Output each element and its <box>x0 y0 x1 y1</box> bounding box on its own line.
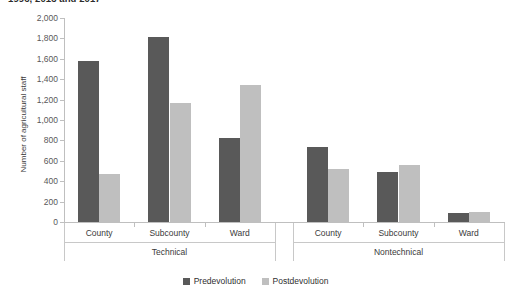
figure-title-clipped: 1996, 2013 and 2017 <box>8 0 101 4</box>
plot-area: 02004006008001,0001,2001,4001,6001,8002,… <box>64 18 504 222</box>
x-axis-tick-mark <box>363 222 364 227</box>
y-axis-tick-mark <box>60 120 64 121</box>
x-axis-category-label: County <box>86 228 113 238</box>
x-axis-group-separator <box>275 223 276 261</box>
x-axis-group-separator <box>293 223 294 261</box>
x-axis-line <box>64 222 505 223</box>
y-axis-tick-mark <box>60 100 64 101</box>
x-axis-category-label: Ward <box>230 228 250 238</box>
y-axis-title: Number of agricultural staff <box>19 40 28 210</box>
x-axis-group-underline <box>64 242 275 243</box>
x-axis-group-label-technical: Technical <box>152 247 187 257</box>
legend-label: Postdevolution <box>273 276 329 286</box>
bar-predevolution-1 <box>148 37 169 222</box>
legend-swatch-icon <box>262 278 269 285</box>
y-axis-tick-mark <box>60 161 64 162</box>
y-axis-tick-mark <box>60 38 64 39</box>
y-axis-tick-mark <box>60 140 64 141</box>
bar-postdevolution-1 <box>170 103 191 222</box>
y-axis-tick-mark <box>60 18 64 19</box>
x-axis-category-label: Subcounty <box>378 228 418 238</box>
x-axis-tick-mark <box>134 222 135 227</box>
legend-item-postdevolution[interactable]: Postdevolution <box>262 276 329 286</box>
x-axis-group-separator <box>504 223 505 261</box>
y-axis-tick-mark <box>60 59 64 60</box>
x-axis-category-label: Ward <box>459 228 479 238</box>
bar-predevolution-4 <box>377 172 398 222</box>
legend-label: Predevolution <box>194 276 246 286</box>
bar-postdevolution-4 <box>399 165 420 222</box>
legend-item-predevolution[interactable]: Predevolution <box>183 276 246 286</box>
chart-figure: 1996, 2013 and 2017 Number of agricultur… <box>0 0 511 298</box>
x-axis-tick-mark <box>205 222 206 227</box>
bar-predevolution-0 <box>78 61 99 222</box>
bar-postdevolution-3 <box>328 169 349 222</box>
y-axis-tick-mark <box>60 202 64 203</box>
x-axis-group-separator <box>64 223 65 261</box>
legend-swatch-icon <box>183 278 190 285</box>
y-axis-tick-mark <box>60 79 64 80</box>
x-axis-group-label-nontechnical: Nontechnical <box>374 247 423 257</box>
bar-postdevolution-0 <box>99 174 120 222</box>
x-axis-category-label: Subcounty <box>149 228 189 238</box>
bar-predevolution-5 <box>448 213 469 222</box>
x-axis-category-label: County <box>315 228 342 238</box>
bar-predevolution-2 <box>219 138 240 222</box>
y-axis-tick-mark <box>60 181 64 182</box>
bar-postdevolution-5 <box>469 212 490 222</box>
x-axis-tick-mark <box>434 222 435 227</box>
chart-legend: PredevolutionPostdevolution <box>0 276 511 286</box>
bar-predevolution-3 <box>307 147 328 222</box>
x-axis-group-underline <box>293 242 504 243</box>
bar-postdevolution-2 <box>240 85 261 222</box>
